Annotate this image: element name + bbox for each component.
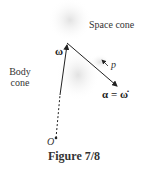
body-cone-label-line1: Body (6, 66, 34, 77)
omega-vector-dashed (56, 95, 60, 138)
space-cone-label: Space cone (89, 19, 134, 30)
alpha-label: α = ω̇ (102, 89, 128, 100)
body-cone-label: Body cone (6, 66, 34, 88)
origin-label: O (47, 136, 54, 147)
origin-point (55, 137, 58, 140)
p-label: p (111, 59, 116, 70)
space-cone-shading (48, 0, 92, 42)
body-cone-label-line2: cone (6, 77, 34, 88)
figure-caption: Figure 7/8 (0, 149, 148, 164)
omega-label: ω (55, 46, 63, 57)
